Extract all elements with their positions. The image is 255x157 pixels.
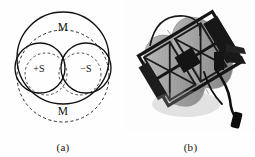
- label-left-plus-s: +S: [33, 63, 45, 74]
- label-top-m: M: [58, 21, 68, 33]
- panel-a: M +S −S M (a): [0, 0, 126, 157]
- photo-shadow: [152, 91, 220, 117]
- label-bottom-m: M: [58, 105, 68, 117]
- figure-root: M +S −S M (a): [0, 0, 255, 157]
- caption-panel-b: (b): [126, 141, 255, 153]
- panel-b: (b): [126, 0, 255, 157]
- caption-panel-a: (a): [0, 141, 126, 153]
- schematic-diagram: M +S −S M: [0, 0, 126, 132]
- label-right-minus-s: −S: [80, 63, 92, 74]
- left-dashed-circle: [25, 53, 67, 95]
- sensor-head-photograph: [126, 0, 255, 132]
